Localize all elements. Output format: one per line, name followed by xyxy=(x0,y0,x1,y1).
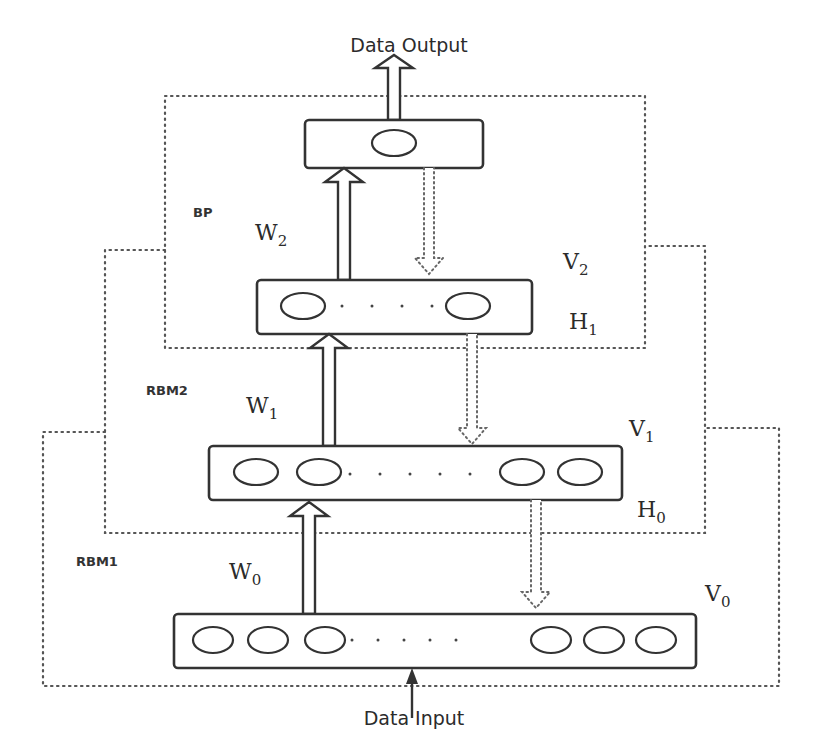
dbn-diagram: BP RBM2 RBM1 Data Output W2 V2 H1 W1 xyxy=(0,0,822,756)
weight-label-w1: W1 xyxy=(246,393,278,423)
output-layer xyxy=(305,120,483,168)
h1-layer xyxy=(257,280,532,334)
h0-unit xyxy=(500,459,544,485)
w2-forward-arrow-icon xyxy=(325,168,363,280)
layer-label-h1: H1 xyxy=(569,309,598,339)
layer-label-v0: V0 xyxy=(704,581,730,611)
weight-label-w0: W0 xyxy=(229,559,261,589)
layer-label-v1: V1 xyxy=(628,416,654,446)
w0-forward-arrow-icon xyxy=(290,502,328,614)
v0-unit xyxy=(636,627,676,653)
region-label-rbm2: RBM2 xyxy=(146,383,188,398)
v0-unit xyxy=(305,627,345,653)
reconstruction-arrow-icon xyxy=(522,500,550,608)
v0-unit xyxy=(248,627,288,653)
reconstruction-arrow-icon xyxy=(415,168,443,274)
v0-unit xyxy=(531,627,571,653)
h0-unit xyxy=(297,459,341,485)
layer-label-v2: V2 xyxy=(562,249,588,279)
v0-layer xyxy=(174,614,696,668)
v0-unit xyxy=(193,627,233,653)
h0-layer xyxy=(209,446,622,500)
h1-unit xyxy=(281,293,325,319)
v0-unit xyxy=(584,627,624,653)
w1-forward-arrow-icon xyxy=(310,334,348,446)
data-output-label: Data Output xyxy=(350,34,467,56)
h0-unit xyxy=(558,459,602,485)
reconstruction-arrow-icon xyxy=(458,334,486,444)
data-input-label: Data Input xyxy=(364,707,465,729)
h1-unit xyxy=(446,293,490,319)
h0-unit xyxy=(234,459,278,485)
output-arrow-icon xyxy=(375,55,413,120)
region-label-rbm1: RBM1 xyxy=(76,554,118,569)
output-unit xyxy=(372,130,416,156)
weight-label-w2: W2 xyxy=(255,220,287,250)
region-label-bp: BP xyxy=(193,205,212,220)
layer-label-h0: H0 xyxy=(637,497,666,527)
